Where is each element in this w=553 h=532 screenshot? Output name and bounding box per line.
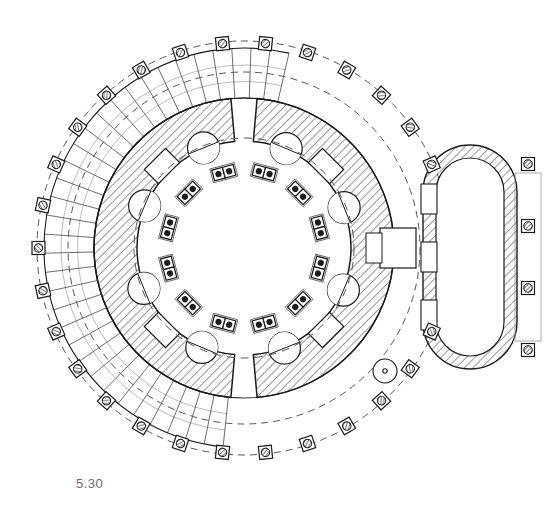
peristyle-column bbox=[97, 86, 115, 104]
peristyle-column bbox=[132, 417, 150, 435]
seat-pair bbox=[250, 163, 278, 183]
seat-pair bbox=[285, 179, 313, 207]
annex-column bbox=[522, 344, 535, 357]
oval-annex bbox=[421, 145, 541, 369]
peristyle-column bbox=[172, 44, 188, 60]
annex-columns bbox=[522, 158, 535, 357]
seat-pair bbox=[309, 214, 329, 242]
peristyle-column bbox=[32, 242, 45, 255]
seat-pair bbox=[159, 214, 179, 242]
annex-column bbox=[522, 282, 535, 295]
figure-plate: 5.30 bbox=[0, 0, 553, 532]
peristyle-column bbox=[258, 36, 272, 50]
peristyle-column bbox=[338, 61, 356, 79]
peristyle-column bbox=[372, 86, 390, 104]
annex-column bbox=[522, 158, 535, 171]
peristyle-column bbox=[97, 392, 115, 410]
seat-pair bbox=[210, 313, 238, 333]
figure-caption-number: 5.30 bbox=[76, 476, 103, 491]
peristyle-column bbox=[338, 417, 356, 435]
peristyle-column bbox=[132, 61, 150, 79]
annex-column bbox=[522, 220, 535, 233]
seat-block-ring bbox=[159, 163, 330, 334]
seat-pair bbox=[175, 289, 203, 317]
peristyle-column bbox=[299, 44, 315, 60]
seat-pair bbox=[285, 289, 313, 317]
seat-pair bbox=[175, 179, 203, 207]
peristyle-column bbox=[372, 392, 390, 410]
peristyle-column bbox=[48, 323, 65, 340]
peristyle-column bbox=[215, 36, 229, 50]
peristyle-column bbox=[299, 435, 315, 451]
rotunda-hatched-wall bbox=[94, 98, 394, 398]
peristyle-column bbox=[215, 445, 229, 459]
peristyle-column bbox=[258, 445, 272, 459]
peristyle-column bbox=[48, 156, 65, 173]
seat-pair bbox=[210, 163, 238, 183]
axial-passage bbox=[366, 228, 416, 268]
seat-pair bbox=[309, 254, 329, 282]
floor-plan-drawing bbox=[0, 0, 553, 532]
peristyle-column bbox=[35, 198, 50, 213]
seat-pair bbox=[250, 313, 278, 333]
stepped-podium-band bbox=[44, 48, 289, 447]
seat-pair bbox=[159, 254, 179, 282]
spiral-stair-icon bbox=[373, 359, 397, 383]
peristyle-column bbox=[35, 283, 50, 298]
